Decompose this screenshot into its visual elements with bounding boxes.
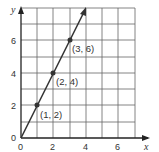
y-tick-2: 2 bbox=[11, 101, 16, 111]
y-tick-0: 0 bbox=[11, 133, 16, 143]
y-axis-label: y bbox=[10, 4, 16, 15]
point-3-6 bbox=[68, 38, 73, 43]
y-axis-arrow-icon bbox=[18, 6, 24, 14]
y-tick-6: 6 bbox=[11, 36, 16, 46]
x-tick-4: 4 bbox=[83, 142, 88, 152]
chart: y x 0 2 4 6 0 2 4 6 (1, 2) (2, 4) (3, 6) bbox=[0, 0, 159, 152]
point-label-3: (3, 6) bbox=[72, 43, 94, 54]
x-tick-2: 2 bbox=[50, 142, 55, 152]
point-label-1: (1, 2) bbox=[40, 109, 62, 120]
x-tick-6: 6 bbox=[115, 142, 120, 152]
grid bbox=[21, 8, 135, 138]
point-1-2 bbox=[35, 103, 40, 108]
x-tick-0: 0 bbox=[18, 142, 23, 152]
x-axis-label: x bbox=[143, 141, 149, 152]
y-tick-4: 4 bbox=[11, 69, 16, 79]
point-label-2: (2, 4) bbox=[56, 76, 78, 87]
point-2-4 bbox=[51, 71, 56, 76]
